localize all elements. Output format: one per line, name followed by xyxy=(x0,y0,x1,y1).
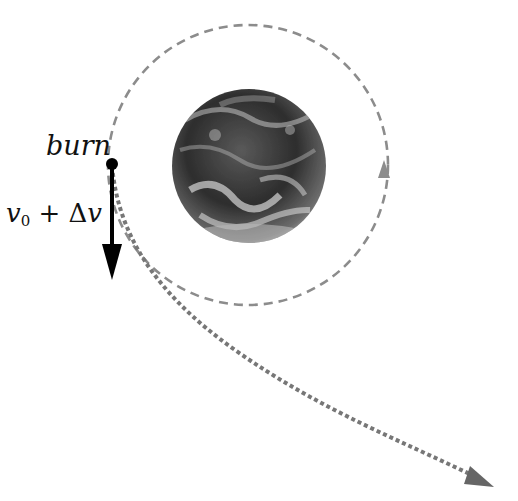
escape-direction-arrow-icon xyxy=(464,466,494,487)
velocity-subscript: 0 xyxy=(21,212,31,230)
velocity-operator: + Δ xyxy=(30,198,87,228)
burn-label: burn xyxy=(46,130,111,161)
orbit-diagram xyxy=(0,0,518,501)
earth-image xyxy=(172,89,326,248)
velocity-symbol: v xyxy=(6,198,21,228)
velocity-arrowhead-icon xyxy=(102,244,122,280)
velocity-symbol-2: v xyxy=(87,198,102,228)
velocity-label: v0 + Δv xyxy=(6,198,102,230)
